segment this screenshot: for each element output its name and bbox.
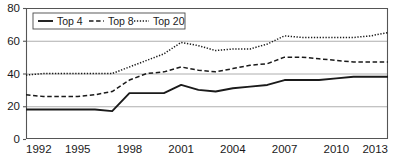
x-tick-label-2004: 2004 (220, 143, 246, 155)
y-tick-label-40: 40 (7, 68, 20, 80)
x-axis-tick-labels: 19921995199820012004200720102013 (26, 143, 388, 155)
x-tick-label-2013: 2013 (362, 143, 388, 155)
legend-label-top-4: Top 4 (57, 15, 83, 27)
chart-canvas: 19921995199820012004200720102013 0204060… (0, 0, 402, 161)
data-series (26, 33, 388, 112)
legend-label-top-8: Top 8 (108, 15, 134, 27)
x-tick-label-2001: 2001 (168, 143, 194, 155)
y-axis-tick-labels: 020406080 (7, 2, 20, 145)
line-chart: 19921995199820012004200720102013 0204060… (0, 0, 402, 161)
x-tick-label-2010: 2010 (323, 143, 349, 155)
y-tick-label-60: 60 (7, 35, 20, 47)
y-tick-label-20: 20 (7, 100, 20, 112)
series-line-top-4 (26, 77, 388, 111)
chart-legend: Top 4Top 8Top 20 (33, 13, 185, 29)
legend-label-top-20: Top 20 (153, 15, 185, 27)
x-tick-label-2007: 2007 (272, 143, 298, 155)
x-tick-label-1998: 1998 (117, 143, 143, 155)
x-tick-label-1995: 1995 (65, 143, 91, 155)
x-tick-label-1992: 1992 (26, 143, 52, 155)
series-line-top-20 (26, 33, 388, 76)
y-tick-label-0: 0 (14, 133, 20, 145)
y-tick-label-80: 80 (7, 2, 20, 14)
